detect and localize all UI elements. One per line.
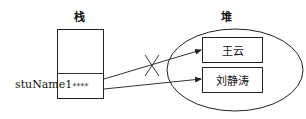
stack-title: 栈 <box>74 12 85 24</box>
heap-object-wangyun: 王云 <box>202 37 263 63</box>
cross-icon <box>145 55 159 76</box>
reference-value: **** <box>73 82 89 91</box>
reference-arrow-active <box>104 79 201 89</box>
variable-label: stuName1 <box>15 79 72 91</box>
heap-object-label: 刘静涛 <box>216 72 249 88</box>
heap-object-label: 王云 <box>222 42 244 58</box>
heap-title: 堆 <box>221 12 232 24</box>
heap-object-liujingtao: 刘静涛 <box>202 67 263 93</box>
